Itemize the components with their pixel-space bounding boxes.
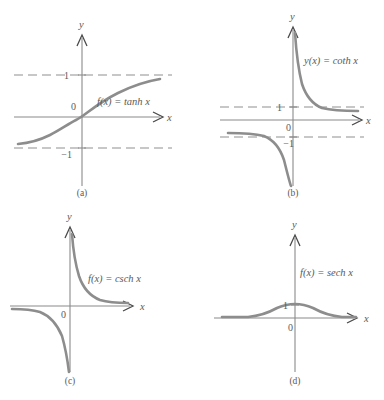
label-origin: 0 bbox=[71, 101, 76, 112]
curve-coth-left bbox=[228, 133, 291, 186]
panel-b-coth: y x 1 −1 0 y(x) = coth x (b) bbox=[192, 0, 384, 200]
label-y-negative-one: −1 bbox=[283, 138, 294, 149]
function-label-coth: y(x) = coth x bbox=[303, 55, 358, 67]
x-axis-label: x bbox=[365, 115, 371, 126]
curve-coth-right bbox=[295, 33, 358, 111]
curve-sech bbox=[222, 304, 356, 317]
y-axis-label: y bbox=[289, 11, 295, 22]
y-axis-label: y bbox=[66, 211, 72, 222]
curve-csch-right bbox=[72, 234, 128, 303]
x-axis-label: x bbox=[363, 313, 369, 324]
curve-tanh bbox=[18, 79, 160, 144]
panel-caption-b: (b) bbox=[287, 188, 298, 199]
x-axis-label: x bbox=[166, 112, 172, 123]
panel-caption-c: (c) bbox=[65, 376, 76, 387]
panel-caption-a: (a) bbox=[77, 188, 88, 199]
panel-caption-d: (d) bbox=[289, 376, 300, 387]
label-origin: 0 bbox=[288, 322, 293, 333]
panel-c-csch: y x 0 f(x) = csch x (c) bbox=[0, 200, 192, 400]
y-axis-label: y bbox=[78, 19, 84, 30]
label-y-one: 1 bbox=[64, 70, 69, 81]
label-y-negative-one: −1 bbox=[61, 149, 72, 160]
label-origin: 0 bbox=[286, 122, 291, 133]
panel-a-tanh: y x 1 −1 0 f(x) = tanh x (a) bbox=[0, 0, 192, 200]
function-label-sech: f(x) = sech x bbox=[300, 267, 353, 279]
label-origin: 0 bbox=[61, 309, 66, 320]
y-axis-label: y bbox=[291, 219, 297, 230]
panel-d-sech: y x 1 0 f(x) = sech x (d) bbox=[192, 200, 384, 400]
x-axis-label: x bbox=[139, 301, 145, 312]
function-label-tanh: f(x) = tanh x bbox=[97, 96, 150, 108]
hyperbolic-functions-figure: y x 1 −1 0 f(x) = tanh x (a) bbox=[0, 0, 384, 400]
label-y-one: 1 bbox=[283, 300, 288, 311]
label-y-one: 1 bbox=[277, 102, 282, 113]
function-label-csch: f(x) = csch x bbox=[88, 273, 141, 285]
